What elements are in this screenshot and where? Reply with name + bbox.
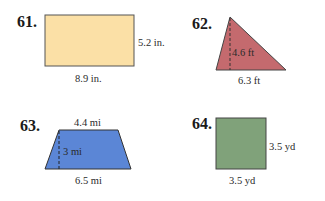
problem-number-63: 63. bbox=[20, 118, 40, 134]
problem-number-62: 62. bbox=[192, 16, 212, 32]
square-bottom-label: 3.5 yd bbox=[229, 175, 255, 186]
trapezoid-bottom-label: 6.5 mi bbox=[75, 175, 102, 186]
trapezoid-shape bbox=[45, 130, 131, 169]
triangle-height-label: 4.6 ft bbox=[232, 47, 254, 58]
triangle-shape bbox=[216, 17, 286, 70]
rectangle-side-label: 5.2 in. bbox=[138, 37, 165, 48]
triangle-base-label: 6.3 ft bbox=[238, 75, 260, 86]
trapezoid-height-label: 3 mi bbox=[63, 146, 82, 157]
square-shape bbox=[216, 118, 266, 169]
rectangle-bottom-label: 8.9 in. bbox=[75, 73, 102, 84]
trapezoid-top-label: 4.4 mi bbox=[74, 117, 101, 128]
rectangle-shape bbox=[45, 15, 134, 66]
figures-canvas bbox=[0, 0, 325, 201]
square-side-label: 3.5 yd bbox=[269, 141, 295, 152]
problem-number-61: 61. bbox=[17, 14, 37, 30]
problem-number-64: 64. bbox=[192, 116, 212, 132]
